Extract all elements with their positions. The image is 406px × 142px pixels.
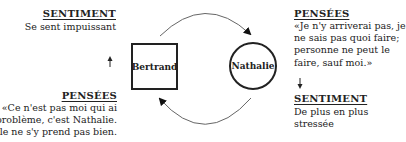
left-pensees-line-1: «Ce n'est pas moi qui ai (2, 102, 117, 114)
right-pensees-line-3: personne ne peut le (294, 44, 390, 56)
right-sentiment-line-1: De plus en plus (294, 106, 368, 118)
arrow-up-icon (108, 56, 113, 67)
right-pensees-heading: PENSÉES (294, 8, 349, 20)
bertrand-label: Bertrand (132, 62, 178, 72)
right-pensees-line-4: faire, sauf moi.» (294, 57, 372, 69)
right-sentiment-line-2: stressée (294, 118, 334, 130)
left-sentiment-heading: SENTIMENT (43, 8, 116, 20)
left-pensees-line-3: Elle ne s'y prend pas bien. (0, 126, 117, 138)
left-pensees-heading: PENSÉES (62, 90, 117, 102)
arc-arrow-bottom (160, 98, 251, 124)
right-pensees-line-2: ne sais pas quoi faire; (294, 32, 399, 44)
arrow-down-icon (298, 78, 303, 89)
right-sentiment-heading: SENTIMENT (294, 93, 367, 105)
nathalie-label: Nathalie (231, 61, 274, 71)
left-sentiment-line-1: Se sent impuissant (25, 21, 116, 33)
right-pensees-line-1: «Je n'y arriverai pas, je (294, 20, 406, 32)
arc-arrow-top (160, 13, 250, 36)
left-pensees-line-2: le problème, c'est Nathalie. (0, 114, 117, 126)
